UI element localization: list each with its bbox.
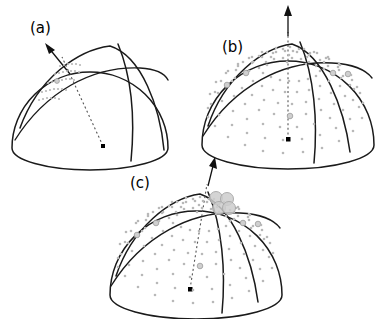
- panel-b-dot-field: [207, 46, 365, 155]
- panel-c-cluster: [210, 192, 236, 215]
- panel-c-meridian-left: [116, 194, 258, 302]
- panel-a-dot-field: [38, 63, 81, 101]
- panel-a-label: (a): [30, 19, 51, 37]
- cluster-circle-4: [223, 202, 236, 215]
- panel-a-axis-arrow-head: [45, 43, 55, 54]
- panel-b-axis-arrow-head: [284, 5, 292, 16]
- panel-a-dome-outline: [12, 72, 168, 170]
- figure-canvas: (a): [0, 0, 388, 319]
- panel-c-ring-4: [134, 198, 261, 269]
- panel-c-center-dot: [188, 287, 193, 292]
- panel-c: (c): [110, 157, 282, 319]
- panel-b-center-dot: [286, 137, 291, 142]
- panel-b-label: (b): [222, 38, 243, 56]
- panel-a-ring-3: [47, 78, 75, 84]
- panel-a-meridian-left: [20, 46, 164, 150]
- panel-c-label: (c): [130, 174, 150, 192]
- panel-a-center-dot: [101, 144, 105, 148]
- panel-b: (b): [202, 5, 374, 169]
- panel-b-ring-7: [207, 61, 365, 155]
- panel-a: (a): [12, 19, 168, 170]
- panel-a-axis-line: [62, 57, 103, 146]
- panel-c-ring-7: [117, 211, 275, 305]
- panel-c-dome-outline: [110, 211, 282, 319]
- panel-a-latitude-arc: [15, 68, 168, 140]
- panel-b-meridian-right: [300, 42, 315, 163]
- figure-root: (a): [0, 0, 388, 319]
- panel-b-ring-2: [243, 50, 336, 94]
- panel-a-meridian-right: [118, 44, 133, 161]
